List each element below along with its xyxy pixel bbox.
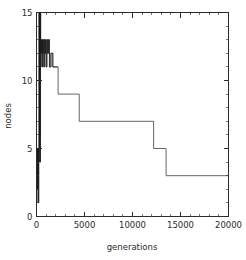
x-axis-title: generations	[107, 242, 158, 252]
x-tick-label: 20000	[215, 220, 242, 230]
chart-figure: 05000100001500020000051015 generations n…	[0, 0, 246, 260]
x-tick-label: 10000	[119, 220, 146, 230]
x-tick-label: 0	[34, 220, 39, 230]
chart-svg: 05000100001500020000051015 generations n…	[0, 0, 246, 260]
y-axis-title: nodes	[3, 103, 13, 129]
y-tick-label: 5	[27, 144, 32, 154]
x-tick-label: 5000	[74, 220, 96, 230]
x-tick-label: 15000	[167, 220, 194, 230]
y-tick-label: 10	[22, 76, 33, 86]
y-tick-label: 0	[27, 212, 32, 222]
y-tick-label: 15	[22, 8, 33, 18]
